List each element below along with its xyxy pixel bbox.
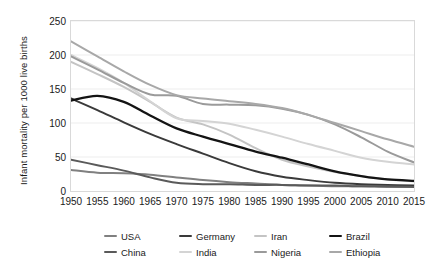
series-line-nigeria (71, 56, 414, 162)
legend-swatch-icon (179, 235, 192, 238)
x-axis-tick-label: 1965 (139, 196, 161, 207)
x-axis-tick-label: 2015 (403, 196, 425, 207)
legend-label: Iran (271, 231, 287, 242)
x-axis-tick-label: 1980 (218, 196, 240, 207)
legend-item-iran[interactable]: Iran (254, 231, 329, 242)
x-axis-tick-label: 2000 (324, 196, 346, 207)
legend-label: Ethiopia (346, 247, 380, 258)
x-axis-tick-label: 2005 (350, 196, 372, 207)
legend-item-china[interactable]: China (104, 247, 179, 258)
legend-label: USA (121, 231, 141, 242)
plot-area (70, 20, 415, 192)
y-axis-tick-labels: 050100150200250 (36, 20, 66, 192)
y-axis-tick-label: 250 (49, 16, 66, 27)
plot-svg (71, 21, 414, 191)
legend-label: India (196, 247, 217, 258)
x-axis-tick-labels: 1950195519601965197019751980198519901995… (70, 196, 415, 212)
legend-item-germany[interactable]: Germany (179, 231, 254, 242)
legend-item-brazil[interactable]: Brazil (329, 231, 404, 242)
x-axis-tick-label: 1970 (165, 196, 187, 207)
y-axis-tick-label: 50 (55, 152, 66, 163)
y-axis-tick-label: 100 (49, 118, 66, 129)
legend-swatch-icon (254, 251, 267, 254)
series-lines (71, 41, 414, 187)
legend-label: Nigeria (271, 247, 301, 258)
x-axis-tick-label: 2010 (376, 196, 398, 207)
y-axis-tick-label: 200 (49, 50, 66, 61)
x-axis-tick-label: 1985 (245, 196, 267, 207)
legend-swatch-icon (254, 235, 267, 238)
x-axis-tick-label: 1950 (60, 196, 82, 207)
y-axis-title: Infant mortality per 1000 live births (18, 26, 29, 196)
y-axis-tick-label: 150 (49, 84, 66, 95)
x-axis-tick-label: 1955 (86, 196, 108, 207)
y-axis-tick-label: 0 (60, 186, 66, 197)
legend-swatch-icon (329, 235, 342, 238)
legend-swatch-icon (329, 251, 342, 254)
chart-legend: USAGermanyIranBrazilChinaIndiaNigeriaEth… (104, 228, 404, 260)
gridlines (71, 21, 414, 157)
legend-swatch-icon (104, 251, 117, 254)
legend-item-usa[interactable]: USA (104, 231, 179, 242)
legend-label: Germany (196, 231, 235, 242)
legend-swatch-icon (104, 235, 117, 238)
x-axis-tick-label: 1975 (192, 196, 214, 207)
legend-label: China (121, 247, 146, 258)
legend-swatch-icon (179, 251, 192, 254)
legend-item-nigeria[interactable]: Nigeria (254, 247, 329, 258)
legend-item-india[interactable]: India (179, 247, 254, 258)
x-axis-tick-label: 1995 (297, 196, 319, 207)
legend-label: Brazil (346, 231, 370, 242)
x-axis-tick-label: 1960 (113, 196, 135, 207)
series-line-ethiopia (71, 41, 414, 146)
x-axis-tick-label: 1990 (271, 196, 293, 207)
legend-item-ethiopia[interactable]: Ethiopia (329, 247, 404, 258)
infant-mortality-line-chart: Infant mortality per 1000 live births 05… (0, 0, 438, 276)
